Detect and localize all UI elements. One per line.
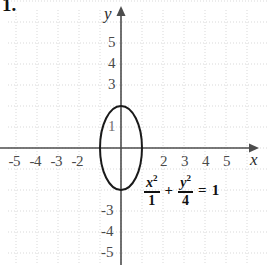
ellipse-equation: x2 1 + y2 4 = 1 [143, 174, 219, 208]
y-tick-label: -5 [101, 245, 114, 260]
fraction-y-denominator: 4 [180, 193, 191, 208]
y-tick-label: 5 [108, 35, 116, 50]
x-tick-label: -2 [72, 154, 84, 169]
y-tick-label: 4 [108, 56, 116, 71]
y-exponent: 2 [186, 173, 191, 183]
y-axis [117, 6, 126, 265]
coordinate-graph: -5-4-3-223455431-3-4-5 y x [0, 0, 267, 265]
equation-result: 1 [212, 182, 220, 199]
plus-operator: + [165, 182, 174, 199]
x-axis-label: x [250, 150, 258, 170]
y-tick-label: 3 [108, 77, 116, 92]
y-tick-label: 1 [108, 119, 116, 134]
fraction-x-term: x2 1 [144, 174, 160, 208]
equals-operator: = [198, 182, 207, 199]
fraction-y-term: y2 4 [178, 174, 193, 208]
fraction-x-numerator: x2 [144, 174, 160, 191]
x-tick-label: 4 [202, 154, 210, 169]
graph-svg [0, 0, 267, 265]
x-tick-label: 2 [160, 154, 168, 169]
y-axis-arrow-icon [117, 6, 126, 16]
x-variable: x [146, 175, 153, 190]
figure-page: 1. -5-4-3-223455431-3-4-5 y x x2 [0, 0, 267, 265]
fraction-x-denominator: 1 [146, 193, 157, 208]
grid-lines [8, 1, 267, 265]
x-axis [0, 144, 259, 153]
y-tick-label: -3 [101, 203, 114, 218]
x-tick-label: 3 [181, 154, 189, 169]
x-tick-label: -5 [9, 154, 21, 169]
y-axis-label: y [104, 4, 112, 24]
x-tick-label: -3 [51, 154, 63, 169]
x-tick-label: -4 [30, 154, 42, 169]
x-tick-label: 5 [223, 154, 231, 169]
fraction-y-numerator: y2 [178, 174, 193, 191]
y-tick-label: -4 [101, 224, 114, 239]
x-exponent: 2 [153, 173, 158, 183]
